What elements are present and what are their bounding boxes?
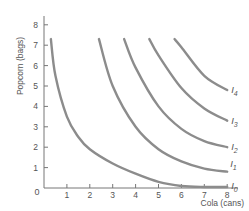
curve-i0 [51, 39, 227, 187]
label-i3: I3 [231, 115, 238, 128]
curve-i1 [99, 39, 227, 172]
curve-i4 [175, 39, 228, 90]
indifference-curves [51, 39, 227, 187]
y-tick-label: 8 [33, 20, 38, 30]
x-tick-label: 1 [65, 190, 70, 200]
y-tick-label: 3 [33, 122, 38, 132]
origin-label: 0 [34, 187, 39, 197]
label-i2: I2 [231, 141, 238, 154]
label-i0: I0 [231, 180, 238, 193]
x-tick-label: 4 [133, 190, 138, 200]
curve-labels: I0I1I2I3I4 [230, 84, 238, 193]
y-tick-label: 5 [33, 81, 38, 91]
y-tick-label: 1 [33, 163, 38, 173]
indifference-curves-chart: 1234567812345678 I0I1I2I3I4 Popcorn (bag… [0, 0, 249, 211]
label-i4: I4 [231, 84, 238, 97]
y-tick-label: 7 [33, 40, 38, 50]
x-tick-label: 3 [110, 190, 115, 200]
y-axis-label: Popcorn (bags) [15, 37, 25, 95]
x-tick-label: 5 [156, 190, 161, 200]
y-tick-label: 6 [33, 61, 38, 71]
x-tick-label: 2 [87, 190, 92, 200]
y-tick-label: 2 [33, 142, 38, 152]
label-i1: I1 [230, 158, 237, 171]
y-tick-label: 4 [33, 101, 38, 111]
x-tick-label: 6 [179, 190, 184, 200]
x-axis-label: Cola (cans) [201, 198, 245, 208]
